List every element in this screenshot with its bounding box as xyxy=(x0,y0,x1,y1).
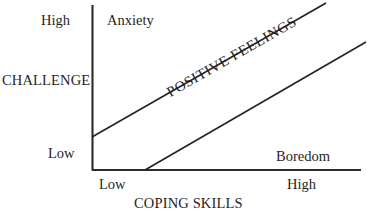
diagram-canvas: High Low CHALLENGE Anxiety POSITIVE FEEL… xyxy=(0,0,367,211)
y-axis-title: CHALLENGE xyxy=(2,73,90,88)
region-label-anxiety: Anxiety xyxy=(107,13,154,28)
y-axis-high-label: High xyxy=(41,13,70,28)
lower-channel-boundary-line xyxy=(145,42,366,170)
region-label-boredom: Boredom xyxy=(276,149,330,164)
x-axis-high-label: High xyxy=(287,177,316,192)
y-axis-low-label: Low xyxy=(48,146,75,161)
x-axis-title: COPING SKILLS xyxy=(134,196,243,211)
x-axis-low-label: Low xyxy=(99,177,126,192)
